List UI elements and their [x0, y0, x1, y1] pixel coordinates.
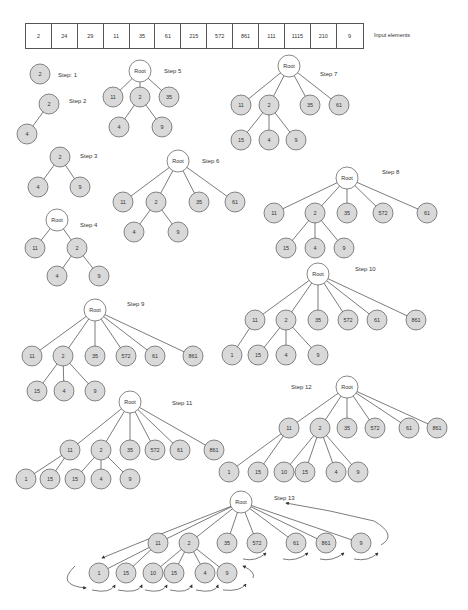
svg-text:35: 35	[224, 540, 230, 546]
tree-node: 2	[276, 310, 296, 330]
svg-text:15: 15	[283, 245, 289, 251]
step-label: Step 4	[80, 222, 98, 228]
root-node: Root	[46, 209, 68, 231]
svg-text:2: 2	[75, 245, 78, 251]
tree-node: 9	[89, 266, 109, 286]
svg-text:35: 35	[344, 210, 350, 216]
svg-text:572: 572	[343, 317, 352, 323]
step-label: Step: 1	[58, 72, 78, 78]
tree-node: 35	[85, 346, 105, 366]
svg-text:35: 35	[344, 425, 350, 431]
svg-text:15: 15	[238, 137, 244, 143]
svg-text:Root: Root	[89, 307, 101, 313]
tree-node: 11	[103, 87, 123, 107]
tree-node: 9	[152, 117, 172, 137]
tree-node: 861	[204, 440, 224, 460]
tree-node: 11	[148, 533, 168, 553]
tree-node: 35	[308, 310, 328, 330]
svg-text:572: 572	[252, 540, 261, 546]
svg-text:Root: Root	[235, 499, 247, 505]
svg-text:9: 9	[97, 273, 100, 279]
step-label: Step 8	[382, 169, 400, 175]
svg-text:15: 15	[302, 469, 308, 475]
svg-text:2: 2	[38, 71, 41, 77]
tree-node: 15	[276, 238, 296, 258]
svg-text:35: 35	[196, 199, 202, 205]
svg-text:2: 2	[99, 447, 102, 453]
tree-node: 10	[143, 563, 163, 583]
svg-text:11: 11	[67, 447, 73, 453]
tree-node: 2	[305, 203, 325, 223]
tree-node: 61	[145, 346, 165, 366]
svg-text:861: 861	[321, 540, 330, 546]
tree-node: 9	[308, 345, 328, 365]
root-node: Root	[336, 376, 358, 398]
tree-node: 11	[113, 192, 133, 212]
tree-node: 9	[217, 563, 237, 583]
step-label: Step 10	[355, 266, 376, 272]
tree-node: 61	[225, 192, 245, 212]
tree-node: 11	[25, 238, 45, 258]
svg-text:Root: Root	[312, 271, 324, 277]
svg-text:2: 2	[267, 102, 270, 108]
tree-node: 61	[399, 418, 419, 438]
tree-node: 572	[365, 418, 385, 438]
svg-text:861: 861	[209, 447, 218, 453]
svg-text:9: 9	[356, 469, 359, 475]
svg-text:Root: Root	[51, 217, 63, 223]
tree-node: 35	[217, 533, 237, 553]
svg-text:9: 9	[316, 352, 319, 358]
root-node: Root	[336, 167, 358, 189]
svg-text:61: 61	[336, 102, 342, 108]
svg-text:Root: Root	[341, 175, 353, 181]
tree-node: 11	[22, 346, 42, 366]
svg-text:10: 10	[150, 570, 156, 576]
svg-text:Root: Root	[283, 63, 295, 69]
svg-text:1: 1	[24, 476, 27, 482]
step-label: Step 11	[172, 400, 193, 406]
svg-text:35: 35	[307, 102, 313, 108]
tree-node: 35	[159, 87, 179, 107]
tree-node: 4	[54, 381, 74, 401]
tree-node: 861	[316, 533, 336, 553]
tree-node: 4	[124, 222, 144, 242]
root-node: Root	[230, 491, 252, 513]
svg-text:9: 9	[128, 476, 131, 482]
tree-node: 1	[16, 469, 36, 489]
svg-text:4: 4	[117, 124, 120, 130]
tree-node: 2	[39, 94, 59, 114]
tree-node: 4	[28, 177, 48, 197]
tree-node: 61	[417, 203, 437, 223]
svg-text:61: 61	[232, 199, 238, 205]
tree-node: 2	[179, 533, 199, 553]
svg-text:2: 2	[58, 154, 61, 160]
svg-text:35: 35	[166, 94, 172, 100]
svg-text:9: 9	[160, 124, 163, 130]
tree-node: 2	[91, 440, 111, 460]
svg-text:4: 4	[313, 245, 316, 251]
svg-text:Root: Root	[134, 68, 146, 74]
tree-node: 10	[274, 462, 294, 482]
svg-text:10: 10	[281, 469, 287, 475]
tree-node: 11	[245, 310, 265, 330]
svg-text:11: 11	[29, 353, 35, 359]
tree-node: 35	[189, 192, 209, 212]
tree-node: 9	[334, 238, 354, 258]
svg-text:4: 4	[132, 229, 135, 235]
svg-text:Root: Root	[172, 158, 184, 164]
svg-text:15: 15	[255, 469, 261, 475]
svg-text:11: 11	[120, 199, 126, 205]
step-label: Step 13	[274, 495, 295, 501]
svg-text:4: 4	[267, 137, 270, 143]
svg-text:61: 61	[406, 425, 412, 431]
svg-text:9: 9	[93, 388, 96, 394]
tree-node: 572	[338, 310, 358, 330]
tree-node: 15	[295, 462, 315, 482]
tree-node: 2	[53, 346, 73, 366]
svg-text:2: 2	[284, 317, 287, 323]
svg-text:2: 2	[313, 210, 316, 216]
tree-node: 15	[248, 345, 268, 365]
svg-text:2: 2	[154, 199, 157, 205]
svg-text:35: 35	[92, 353, 98, 359]
svg-text:15: 15	[123, 570, 129, 576]
